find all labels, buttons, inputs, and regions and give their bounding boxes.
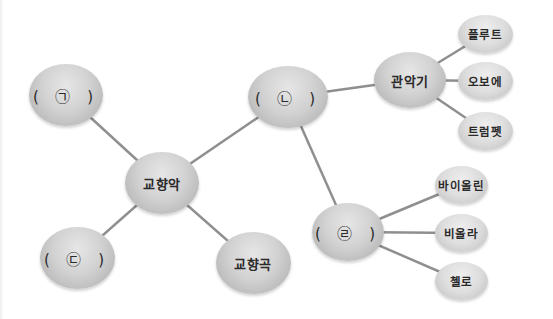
mind-map-canvas: ( ㉠ ) ( ㉡ ) 교향악 ( ㉢ ) 교향곡 관악기 플루트 오보에 트럼… — [0, 0, 553, 319]
node-label: ( ㉠ ) — [33, 85, 99, 106]
node-label: 교향곡 — [234, 254, 272, 273]
node-center-orchestral-music: 교향악 — [125, 152, 199, 214]
node-label: 플루트 — [468, 26, 503, 42]
node-label: 바이올린 — [438, 177, 484, 193]
node-label: ( ㉡ ) — [255, 87, 321, 108]
node-blank-a: ( ㉠ ) — [29, 64, 103, 126]
node-blank-c: ( ㉢ ) — [40, 227, 115, 289]
node-label: 오보에 — [468, 73, 503, 89]
node-label: 관악기 — [391, 71, 429, 90]
node-blank-d: ( ㉣ ) — [312, 203, 384, 261]
node-label: ( ㉣ ) — [315, 222, 381, 243]
node-label: 교향악 — [143, 174, 181, 193]
node-label: ( ㉢ ) — [44, 248, 110, 269]
node-label: 트럼펫 — [468, 123, 503, 139]
node-blank-b: ( ㉡ ) — [248, 66, 328, 128]
node-symphony: 교향곡 — [216, 232, 291, 294]
node-label: 첼로 — [450, 273, 473, 289]
node-label: 비올라 — [444, 225, 479, 241]
node-cello: 첼로 — [435, 262, 488, 300]
node-wind-instruments: 관악기 — [374, 52, 446, 108]
node-violin: 바이올린 — [435, 166, 488, 204]
node-trumpet: 트럼펫 — [458, 112, 513, 150]
node-viola: 비올라 — [435, 214, 488, 252]
node-oboe: 오보에 — [458, 62, 513, 100]
node-flute: 플루트 — [458, 15, 513, 53]
